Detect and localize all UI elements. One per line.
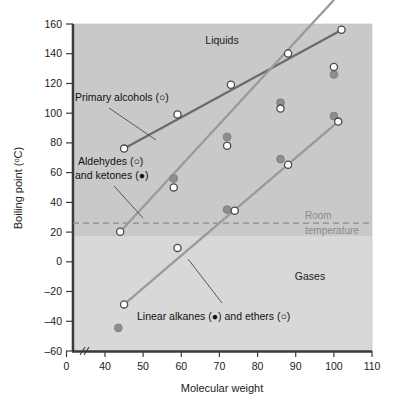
data-point-ether-45[interactable] (121, 301, 128, 308)
data-point-aldehyde-44[interactable] (117, 228, 124, 235)
data-point-aldehyde-100[interactable] (330, 63, 337, 70)
data-point-ether-88[interactable] (285, 161, 292, 168)
data-point-alcohol-59[interactable] (174, 111, 181, 118)
x-tick-label-40: 40 (99, 360, 111, 372)
y-tick-label-minus20: –20 (44, 285, 62, 297)
x-tick-label-80: 80 (252, 360, 264, 372)
data-point-ketone-72[interactable] (223, 133, 231, 141)
data-point-alcohol-73[interactable] (227, 81, 234, 88)
data-point-alkane-86[interactable] (277, 155, 285, 163)
x-tick-label-50: 50 (137, 360, 149, 372)
x-tick-label-110: 110 (364, 360, 381, 372)
region-label-liquids: Liquids (205, 34, 238, 46)
y-tick-label-140: 140 (44, 47, 62, 59)
data-point-alcohol-45[interactable] (121, 145, 128, 152)
data-point-alkane-44[interactable] (114, 324, 122, 332)
room-temperature-label-line1: Room (305, 210, 332, 221)
region-label-gases: Gases (295, 270, 325, 282)
y-axis-title: Boiling point (oC) (12, 147, 25, 229)
room-temperature-label-line2: temperature (305, 225, 359, 236)
plot-background-lower (72, 236, 372, 351)
series-label-ketones: and ketones (●) (75, 169, 148, 181)
y-tick-label-40: 40 (50, 196, 62, 208)
y-tick-label-20: 20 (50, 226, 62, 238)
data-point-alcohol-88[interactable] (285, 50, 292, 57)
data-point-aldehyde-86[interactable] (277, 105, 284, 112)
y-tick-label-100: 100 (44, 107, 62, 119)
x-tick-label-0: 0 (64, 360, 70, 372)
series-label-aldehydes: Aldehydes (○) (78, 155, 143, 167)
data-point-ether-74[interactable] (231, 207, 238, 214)
data-point-ether-101[interactable] (335, 118, 342, 125)
x-tick-label-90: 90 (290, 360, 302, 372)
y-tick-label-minus40: –40 (44, 315, 62, 327)
x-tick-label-60: 60 (175, 360, 187, 372)
data-point-aldehyde-72[interactable] (224, 142, 231, 149)
series-label-alkanes-ethers: Linear alkanes (●) and ethers (○) (137, 310, 290, 322)
boiling-point-figure: 160 140 120 100 80 60 40 20 0 –20 –40 –6… (0, 0, 398, 406)
x-axis-title: Molecular weight (181, 382, 264, 394)
x-tick-label-70: 70 (214, 360, 226, 372)
y-tick-label-120: 120 (44, 77, 62, 89)
data-point-alcohol-102[interactable] (338, 26, 345, 33)
y-tick-label-80: 80 (50, 136, 62, 148)
data-point-aldehyde-58[interactable] (170, 184, 177, 191)
boiling-point-chart: 160 140 120 100 80 60 40 20 0 –20 –40 –6… (0, 0, 398, 406)
x-tick-label-100: 100 (325, 360, 343, 372)
data-point-ketone-58[interactable] (170, 175, 178, 183)
data-point-ether-59[interactable] (174, 244, 181, 251)
y-tick-label-0: 0 (56, 255, 62, 267)
y-tick-label-minus60: –60 (44, 345, 62, 357)
data-point-alkane-72[interactable] (223, 206, 231, 214)
series-label-primary-alcohols: Primary alcohols (○) (75, 91, 169, 103)
y-tick-label-160: 160 (44, 18, 62, 30)
y-tick-label-60: 60 (50, 166, 62, 178)
data-point-ketone-100[interactable] (330, 71, 338, 79)
